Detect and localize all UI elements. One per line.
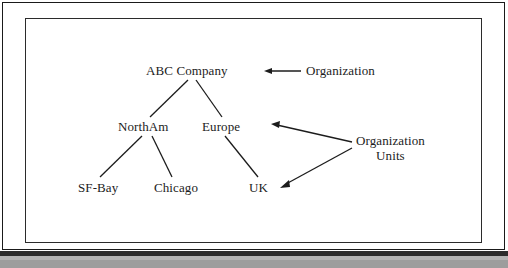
node-sf-bay: SF-Bay bbox=[78, 180, 118, 195]
inner-page-border bbox=[25, 18, 482, 243]
scan-edge-gray-highlight bbox=[0, 256, 508, 260]
node-uk: UK bbox=[249, 180, 268, 195]
node-northam: NorthAm bbox=[118, 119, 169, 134]
annotation-label-organization-units: Organization Units bbox=[356, 133, 425, 163]
node-chicago: Chicago bbox=[154, 180, 198, 195]
annotation-units-line1: Organization bbox=[356, 133, 425, 148]
annotation-units-line2: Units bbox=[356, 148, 425, 163]
node-europe: Europe bbox=[202, 119, 240, 134]
scanned-page: ABC Company NorthAm Europe SF-Bay Chicag… bbox=[0, 0, 508, 268]
annotation-label-organization: Organization bbox=[306, 63, 375, 78]
node-abc-company: ABC Company bbox=[146, 63, 228, 78]
